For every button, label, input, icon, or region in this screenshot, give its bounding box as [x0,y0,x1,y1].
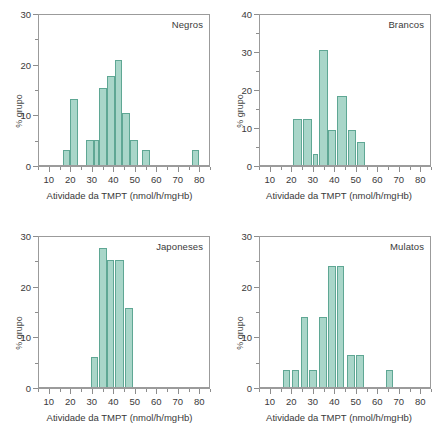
x-tick-major [399,167,400,172]
histogram-bar [283,370,291,387]
x-tick-minor [410,167,411,170]
y-tick-label: 20 [20,59,31,70]
y-tick-label: 0 [26,161,31,172]
bars-negros [39,15,209,165]
x-tick-major [270,167,271,172]
histogram-bar [70,99,78,165]
x-axis-mulatos: 1020304050607080 [259,388,431,389]
plot-area-japoneses: Japoneses [38,236,210,388]
x-tick-major [49,389,50,394]
x-tick-major [377,389,378,394]
x-tick-label: 60 [151,174,162,185]
x-tick-minor [60,389,61,392]
y-tick-label: 0 [247,383,252,394]
x-tick-major [420,389,421,394]
x-tick-major [270,389,271,394]
x-tick-minor [324,389,325,392]
x-axis-label-negros: Atividade da TMPT (nmol/h/mgHb) [0,190,221,201]
bars-japoneses [39,237,209,387]
y-tick-label: 0 [26,383,31,394]
x-tick-label: 10 [43,396,54,407]
panel-negros: % grupo 0102030 Negros 1020304050607080 … [0,0,221,222]
x-tick-label: 80 [415,174,426,185]
histogram-bar [86,140,94,165]
y-tick-label: 30 [241,231,252,242]
y-tick-label: 10 [241,123,252,134]
histogram-bar [337,266,345,387]
x-tick-label: 10 [264,174,275,185]
y-ticks-mulatos: 0102030 [221,236,259,388]
x-tick-label: 80 [194,396,205,407]
x-tick-label: 60 [372,174,383,185]
histogram-bar [292,370,299,387]
x-tick-label: 50 [350,396,361,407]
x-tick-major [70,167,71,172]
histogram-bar [337,96,347,165]
x-tick-minor [146,167,147,170]
x-tick-minor [388,389,389,392]
x-tick-minor [124,389,125,392]
panel-mulatos: % grupo 0102030 Mulatos 1020304050607080… [221,222,441,444]
x-tick-minor [103,389,104,392]
histogram-bar [91,357,99,387]
x-tick-label: 50 [350,174,361,185]
x-axis-brancos: 1020304050607080 [259,166,431,167]
histogram-bar [107,76,115,165]
x-tick-label: 30 [307,174,318,185]
x-tick-major [199,389,200,394]
histogram-bar [303,119,312,165]
x-tick-major [334,167,335,172]
x-axis-label-brancos: Atividade da TMPT (nmol/h/mgHb) [221,190,441,201]
y-tick-label: 10 [20,332,31,343]
x-tick-minor [189,167,190,170]
x-tick-label: 50 [129,174,140,185]
histogram-bar [192,150,200,165]
x-tick-major [135,389,136,394]
y-ticks-brancos: 010203040 [221,14,259,166]
x-tick-minor [167,167,168,170]
x-tick-major [92,389,93,394]
panel-brancos: % grupo 010203040 Brancos 10203040506070… [221,0,441,222]
bars-brancos [260,15,430,165]
x-tick-major [156,167,157,172]
x-tick-minor [431,167,432,170]
x-tick-label: 30 [307,396,318,407]
histogram-bar [309,370,317,387]
x-tick-minor [302,167,303,170]
x-tick-minor [60,167,61,170]
y-tick-label: 0 [247,161,252,172]
x-tick-major [313,167,314,172]
x-tick-label: 60 [372,396,383,407]
x-tick-minor [38,389,39,392]
x-tick-major [291,167,292,172]
x-tick-major [356,389,357,394]
x-tick-minor [345,167,346,170]
x-tick-label: 40 [108,174,119,185]
x-tick-label: 20 [286,174,297,185]
x-tick-major [291,389,292,394]
histogram-bar [319,50,328,165]
y-tick-label: 20 [20,281,31,292]
x-axis-japoneses: 1020304050607080 [38,388,210,389]
histogram-bar [348,130,356,165]
x-tick-label: 70 [172,396,183,407]
x-tick-minor [367,389,368,392]
y-tick-label: 30 [20,231,31,242]
x-tick-minor [38,167,39,170]
x-tick-label: 20 [65,174,76,185]
x-tick-label: 70 [393,174,404,185]
y-tick-label: 10 [20,110,31,121]
x-tick-label: 40 [329,396,340,407]
y-tick-label: 20 [241,85,252,96]
x-tick-minor [146,389,147,392]
x-tick-label: 80 [415,396,426,407]
x-tick-minor [259,167,260,170]
x-tick-label: 80 [194,174,205,185]
histogram-bar [328,130,336,165]
x-tick-major [356,167,357,172]
x-tick-minor [302,389,303,392]
x-tick-major [70,389,71,394]
x-tick-major [313,389,314,394]
x-tick-minor [210,167,211,170]
x-tick-major [399,389,400,394]
